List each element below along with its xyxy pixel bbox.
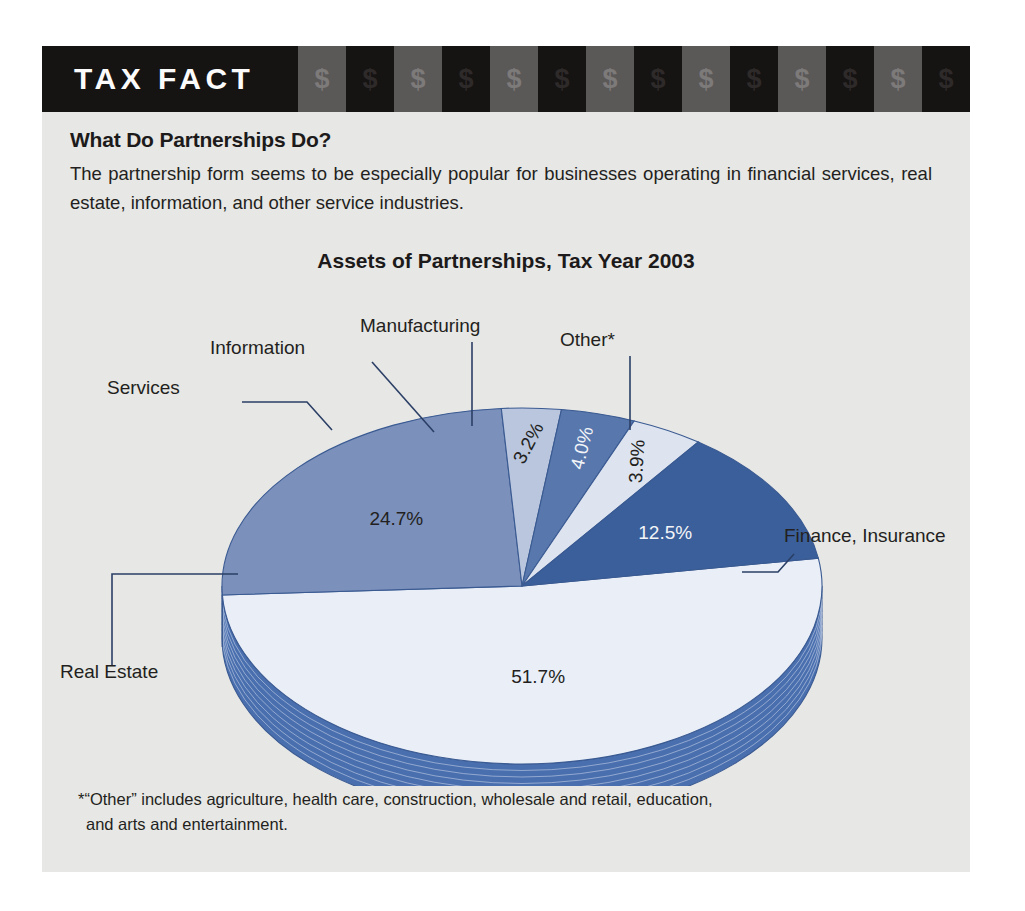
dollar-sign-icon: $ [922, 46, 970, 112]
dollar-block: $ [730, 46, 778, 112]
pie-callout-leader-line [242, 402, 332, 430]
dollar-sign-icon: $ [538, 46, 586, 112]
pie-callout-label: Other* [560, 329, 616, 350]
dollar-block: $ [826, 46, 874, 112]
pie-slice[interactable] [222, 408, 522, 595]
tax-fact-banner: $$$$$$$$$$$$$$ TAX FACT [42, 46, 970, 112]
pie-chart-graphic: 51.7%24.7%3.2%4.0%3.9%12.5% [222, 408, 822, 786]
pie-chart: 51.7%24.7%3.2%4.0%3.9%12.5% ServicesInfo… [42, 286, 970, 786]
dollar-block: $ [922, 46, 970, 112]
section-heading: What Do Partnerships Do? [70, 128, 331, 152]
pie-callout-leader-line [372, 362, 434, 432]
dollar-block: $ [682, 46, 730, 112]
dollar-sign-icon: $ [826, 46, 874, 112]
pie-callout-label: Manufacturing [360, 315, 480, 336]
pie-callout-label: Real Estate [60, 661, 158, 682]
chart-title: Assets of Partnerships, Tax Year 2003 [42, 249, 970, 273]
pie-slice-value: 24.7% [369, 508, 423, 529]
pie-callout-label: Finance, Insurance [784, 525, 946, 546]
intro-line-1: The partnership form seems to be especia… [70, 163, 741, 184]
dollar-sign-icon: $ [394, 46, 442, 112]
tax-fact-card: $$$$$$$$$$$$$$ TAX FACT What Do Partners… [42, 46, 970, 872]
dollar-sign-icon: $ [298, 46, 346, 112]
intro-paragraph: The partnership form seems to be especia… [70, 159, 932, 217]
dollar-sign-icon: $ [778, 46, 826, 112]
pie-callout-label: Information [210, 337, 305, 358]
dollar-sign-icon: $ [490, 46, 538, 112]
dollar-block: $ [346, 46, 394, 112]
dollar-sign-icon: $ [442, 46, 490, 112]
chart-footnote: *“Other” includes agriculture, health ca… [78, 787, 878, 837]
pie-slice-value: 3.9% [625, 439, 649, 484]
dollar-sign-icon: $ [586, 46, 634, 112]
dollar-block: $ [538, 46, 586, 112]
dollar-block: $ [874, 46, 922, 112]
dollar-block: $ [586, 46, 634, 112]
dollar-block: $ [394, 46, 442, 112]
dollar-block: $ [634, 46, 682, 112]
pie-callout-leader-line [112, 574, 238, 666]
dollar-sign-icon: $ [874, 46, 922, 112]
footnote-line-2: and arts and entertainment. [78, 812, 878, 837]
footnote-line-1: *“Other” includes agriculture, health ca… [78, 790, 713, 808]
pie-slice-value: 12.5% [638, 522, 692, 543]
pie-callout-label: Services [107, 377, 180, 398]
dollar-block: $ [778, 46, 826, 112]
dollar-block: $ [442, 46, 490, 112]
banner-title: TAX FACT [74, 46, 254, 112]
dollar-sign-icon: $ [730, 46, 778, 112]
dollar-sign-icon: $ [634, 46, 682, 112]
dollar-block: $ [490, 46, 538, 112]
dollar-sign-icon: $ [682, 46, 730, 112]
dollar-block: $ [298, 46, 346, 112]
pie-slice-value: 51.7% [511, 666, 565, 687]
dollar-sign-icon: $ [346, 46, 394, 112]
